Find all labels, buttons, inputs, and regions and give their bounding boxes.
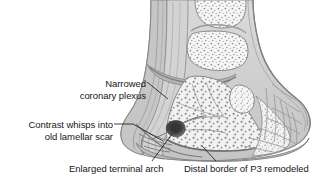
label-enlarged-terminal-arch: Enlarged terminal arch [69,163,163,175]
label-line-1: Narrowed [105,78,146,89]
hoof-cross-section-illustration [0,0,321,179]
label-line-1: Contrast whisps into [28,119,113,130]
label-contrast-whisps-into-old-lamellar-scar: Contrast whisps into old lamellar scar [1,119,113,142]
figure-root: Narrowed coronary plexus Contrast whisps… [0,0,321,179]
label-line-2: old lamellar scar [1,131,113,143]
label-narrowed-coronary-plexus: Narrowed coronary plexus [64,78,146,101]
label-line-1: Enlarged terminal arch [69,163,163,174]
label-line-2: coronary plexus [64,90,146,102]
label-distal-border-of-p3-remodeled: Distal border of P3 remodeled [184,163,309,175]
label-line-1: Distal border of P3 remodeled [184,163,309,174]
